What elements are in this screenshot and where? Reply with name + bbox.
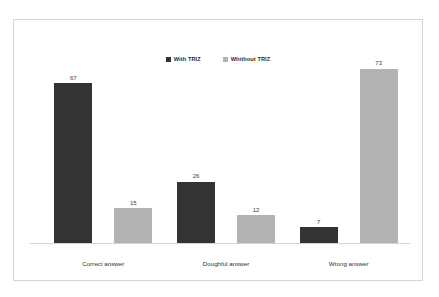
bar-correct-answer-without-triz[interactable]: 15 bbox=[114, 42, 152, 244]
bar-doughful-answer-with-triz[interactable]: 26 bbox=[177, 42, 215, 244]
bar-doughful-answer-without-triz[interactable]: 12 bbox=[237, 42, 275, 244]
bar-value-label: 26 bbox=[193, 173, 200, 179]
bar-rect bbox=[360, 69, 398, 244]
bar-rect bbox=[177, 182, 215, 244]
bar-wrong-answer-with-triz[interactable]: 7 bbox=[300, 42, 338, 244]
bar-value-label: 67 bbox=[70, 75, 77, 81]
bar-group-wrong-answer: 7 73 bbox=[287, 42, 410, 244]
bar-rect bbox=[237, 215, 275, 244]
bar-value-label: 7 bbox=[317, 219, 320, 225]
x-axis-line bbox=[30, 243, 410, 244]
bar-wrong-answer-without-triz[interactable]: 73 bbox=[360, 42, 398, 244]
bar-group-correct-answer: 67 15 bbox=[42, 42, 165, 244]
bar-rect bbox=[300, 227, 338, 244]
bar-rect bbox=[54, 83, 92, 244]
category-label-doughful-answer: Doughful answer bbox=[165, 260, 288, 267]
bars-layer: 67 15 26 12 7 bbox=[42, 42, 410, 244]
bar-value-label: 73 bbox=[375, 60, 382, 66]
bar-correct-answer-with-triz[interactable]: 67 bbox=[54, 42, 92, 244]
plot-area: With TRIZ Whithout TRIZ 67 15 2 bbox=[14, 20, 422, 280]
bar-rect bbox=[114, 208, 152, 244]
bar-group-doughful-answer: 26 12 bbox=[165, 42, 288, 244]
chart-frame: With TRIZ Whithout TRIZ 67 15 2 bbox=[13, 19, 423, 281]
bar-value-label: 12 bbox=[253, 207, 260, 213]
bar-value-label: 15 bbox=[130, 200, 137, 206]
category-label-correct-answer: Correct answer bbox=[42, 260, 165, 267]
x-axis-category-labels: Correct answer Doughful answer Wrong ans… bbox=[42, 260, 410, 267]
category-label-wrong-answer: Wrong answer bbox=[287, 260, 410, 267]
